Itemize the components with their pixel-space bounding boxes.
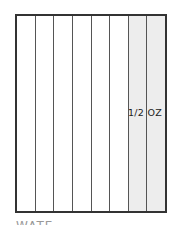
column-6 (110, 16, 129, 211)
column-3 (54, 16, 73, 211)
shaded-amount-label: 1/2 OZ (128, 107, 162, 118)
column-5 (92, 16, 111, 211)
column-2 (36, 16, 55, 211)
column-1 (17, 16, 36, 211)
cut-off-caption: WATE (16, 219, 53, 225)
column-4 (73, 16, 92, 211)
